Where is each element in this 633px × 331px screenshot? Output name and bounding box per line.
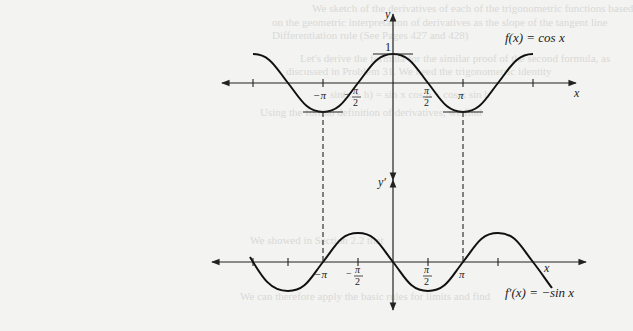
svg-text:2: 2 [355,276,360,287]
bottom-y-axis-label: y′ [377,175,386,189]
bottom-tick-label-pi-half: π 2 [423,264,432,287]
svg-text:π: π [353,85,359,96]
top-y-axis-label: y [384,7,391,21]
tick-label-neg-pi-half: − π 2 [344,85,361,108]
bottom-tick-label-neg-pi-half: − π 2 [346,264,363,287]
max-value-label: 1 [385,40,391,54]
svg-text:π: π [355,264,361,275]
cos-function-label: f(x) = cos x [505,30,565,45]
svg-text:2: 2 [424,276,429,287]
svg-text:−: − [344,89,350,100]
tick-label-pi: π [458,89,464,101]
svg-text:2: 2 [353,97,358,108]
bottom-tick-label-pi: π [459,268,465,280]
top-x-axis-label: x [573,86,580,100]
bottom-tick-label-neg-pi: −π [314,268,327,280]
svg-text:2: 2 [424,97,429,108]
svg-text:π: π [424,264,430,275]
bottom-graph: y′ x f′(x) = −sin x −π − π 2 π 2 π [212,175,586,310]
svg-text:π: π [424,85,430,96]
bottom-x-axis-label: x [543,261,550,275]
neg-sin-function-label: f′(x) = −sin x [505,285,574,300]
top-graph: y 1 x f(x) = cos x −π − π 2 π 2 π [222,7,580,180]
svg-text:−: − [346,268,352,279]
tick-label-pi-half: π 2 [423,85,432,108]
tick-label-neg-pi: −π [313,89,326,101]
